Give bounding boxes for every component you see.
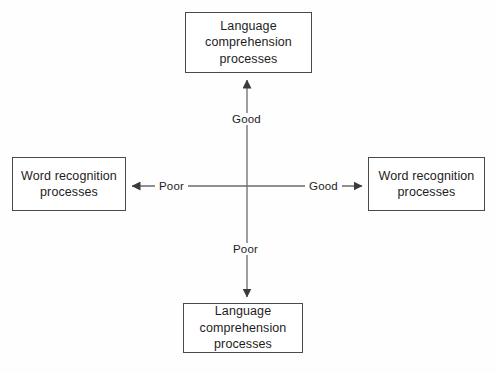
axis-label-right: Good	[305, 180, 342, 192]
node-top-language-comprehension[interactable]: Language comprehension processes	[185, 12, 312, 73]
axis-label-left: Poor	[155, 180, 188, 192]
node-right-label: Word recognition processes	[373, 168, 481, 201]
node-bottom-label: Language comprehension processes	[194, 303, 293, 353]
node-top-label: Language comprehension processes	[199, 18, 298, 68]
node-bottom-language-comprehension[interactable]: Language comprehension processes	[183, 303, 303, 353]
node-right-word-recognition[interactable]: Word recognition processes	[368, 157, 485, 211]
axis-label-up: Good	[228, 113, 265, 125]
node-left-label: Word recognition processes	[15, 168, 123, 201]
axis-label-down: Poor	[229, 243, 262, 255]
diagram-canvas: Language comprehension processes Word re…	[0, 0, 496, 373]
node-left-word-recognition[interactable]: Word recognition processes	[12, 157, 126, 211]
